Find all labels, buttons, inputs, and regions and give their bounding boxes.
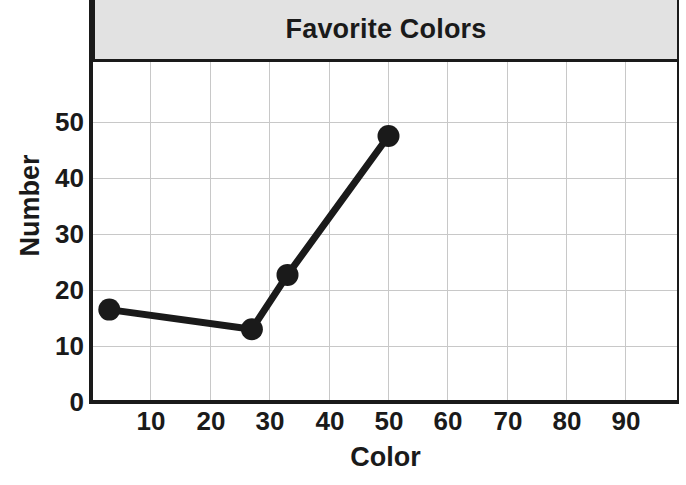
y-axis-line — [89, 0, 93, 404]
plot-area — [92, 62, 679, 402]
gridline-vertical-50 — [388, 62, 389, 402]
x-axis-title: Color — [92, 442, 679, 473]
gridline-vertical-90 — [625, 62, 626, 402]
x-tick-label-50: 50 — [359, 408, 419, 434]
y-tick-label-50: 50 — [36, 109, 84, 135]
x-tick-label-80: 80 — [537, 408, 597, 434]
plot-frame-right — [677, 62, 679, 403]
y-tick-label-20: 20 — [36, 277, 84, 303]
gridline-vertical-10 — [150, 62, 151, 402]
gridline-vertical-40 — [329, 62, 330, 402]
gridline-vertical-30 — [269, 62, 270, 402]
gridline-horizontal-30 — [92, 234, 679, 235]
x-tick-label-70: 70 — [478, 408, 538, 434]
chart-title-band: Favorite Colors — [92, 0, 679, 62]
x-tick-label-30: 30 — [240, 408, 300, 434]
x-tick-label-40: 40 — [300, 408, 360, 434]
x-tick-label-20: 20 — [181, 408, 241, 434]
gridline-vertical-20 — [210, 62, 211, 402]
gridline-vertical-80 — [566, 62, 567, 402]
gridline-vertical-70 — [507, 62, 508, 402]
x-axis-line — [89, 400, 679, 404]
gridline-horizontal-20 — [92, 290, 679, 291]
gridline-horizontal-10 — [92, 346, 679, 347]
gridline-horizontal-40 — [92, 178, 679, 179]
gridline-vertical-60 — [447, 62, 448, 402]
x-tick-label-10: 10 — [121, 408, 181, 434]
y-axis-title: Number — [15, 146, 46, 266]
line-chart: Favorite Colors 50 40 30 20 10 0 10 20 3… — [0, 0, 686, 485]
y-tick-label-10: 10 — [36, 333, 84, 359]
chart-title: Favorite Colors — [285, 14, 486, 45]
y-tick-label-0: 0 — [36, 389, 84, 415]
x-tick-label-90: 90 — [596, 408, 656, 434]
x-tick-label-60: 60 — [418, 408, 478, 434]
gridline-horizontal-50 — [92, 122, 679, 123]
